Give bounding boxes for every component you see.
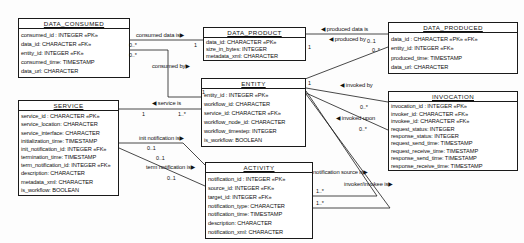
entity-data_consumed: DATA_CONSUMEDconsumed_id : INTEGER «PK»d… bbox=[18, 18, 130, 78]
connector-invoked-upon bbox=[306, 93, 388, 130]
attribute-row: request_send_time: TIMESTAMP bbox=[391, 140, 515, 146]
attribute-row: entity_id : INTEGER «PK» bbox=[204, 92, 303, 98]
multiplicity-label: 0..1 bbox=[147, 145, 156, 151]
attribute-row: init_notification_id: INTEGER «FK» bbox=[21, 146, 116, 152]
attribute-row: is_workflow: BOOLEAN bbox=[21, 187, 116, 193]
entity-invocation: INVOCATIONinvocation_id : INTEGER «PK»in… bbox=[388, 91, 518, 171]
attribute-row: request_status: INTEGER bbox=[391, 126, 515, 132]
attribute-row: source_id: INTEGER «FK» bbox=[208, 185, 310, 191]
attribute-row: invoker_id: CHARACTER «FK» bbox=[391, 111, 515, 117]
attribute-row: entity_id: INTEGER «FK» bbox=[391, 45, 515, 51]
attribute-row: data_id: CHARACTER «PK» bbox=[206, 39, 303, 45]
relationship-label: notification source is▶ bbox=[313, 169, 368, 175]
multiplicity-label: 1 bbox=[308, 80, 311, 86]
relationship-label: invoker/invokee is▶ bbox=[344, 181, 393, 187]
attribute-list: data_id: CHARACTER «PK»size_in_bytes: IN… bbox=[204, 38, 305, 60]
attribute-row: service_id : CHARACTER «PK» bbox=[21, 113, 116, 119]
attribute-row: metadata_xml: CHARACTER bbox=[21, 179, 116, 185]
entity-title-service: SERVICE bbox=[19, 101, 118, 111]
attribute-row: service_location: CHARACTER bbox=[21, 121, 116, 127]
entity-entity: ENTITYentity_id : INTEGER «PK»workflow_i… bbox=[201, 78, 306, 147]
multiplicity-label: 0..* bbox=[129, 42, 137, 48]
relationship-label: ◀ service is bbox=[152, 100, 181, 106]
attribute-list: service_id : CHARACTER «PK»service_locat… bbox=[19, 111, 118, 195]
relationship-label: ◀ produced data is bbox=[321, 26, 368, 32]
attribute-row: consumed_id : INTEGER «PK» bbox=[21, 32, 127, 38]
multiplicity-label: 0..* bbox=[359, 126, 367, 132]
multiplicity-label: 0..* bbox=[372, 47, 380, 53]
attribute-list: invocation_id : INTEGER «PK»invoker_id: … bbox=[389, 102, 517, 170]
attribute-row: produced_time: TIMESTAMP bbox=[391, 55, 515, 61]
attribute-row: workflow_node_id: CHARACTER bbox=[204, 119, 303, 125]
relationship-label: consumed data is▶ bbox=[136, 32, 184, 38]
entity-title-data_product: DATA_PRODUCT bbox=[204, 28, 305, 38]
multiplicity-label: 0..1 bbox=[367, 38, 376, 44]
multiplicity-label: 1..* bbox=[178, 111, 186, 117]
relationship-label: init notification is▶ bbox=[139, 135, 184, 141]
relationship-label: term notification is▶ bbox=[146, 164, 195, 170]
entity-title-data_produced: DATA_PRODUCED bbox=[389, 23, 517, 33]
attribute-list: entity_id : INTEGER «PK»workflow_id: CHA… bbox=[202, 89, 305, 146]
attribute-row: response_status: INTEGER bbox=[391, 133, 515, 139]
attribute-row: response_send_time: TIMESTAMP bbox=[391, 155, 515, 161]
multiplicity-label: 1 bbox=[194, 42, 197, 48]
attribute-row: invocation_id : INTEGER «PK» bbox=[391, 103, 515, 109]
attribute-row: notification_id : INTEGER «PK» bbox=[208, 176, 310, 182]
multiplicity-label: 1 bbox=[142, 111, 145, 117]
attribute-row: data_id: CHARACTER «FK» bbox=[21, 41, 127, 47]
attribute-row: size_in_bytes: INTEGER bbox=[206, 46, 303, 52]
entity-title-data_consumed: DATA_CONSUMED bbox=[19, 19, 129, 29]
entity-title-entity: ENTITY bbox=[202, 79, 305, 89]
multiplicity-label: 1..* bbox=[316, 188, 324, 194]
relationship-label: ◀ produced by bbox=[329, 36, 366, 42]
multiplicity-label: 0..1 bbox=[167, 175, 176, 181]
attribute-row: request_receive_time: TIMESTAMP bbox=[391, 148, 515, 154]
attribute-row: data_url: CHARACTER bbox=[391, 64, 515, 70]
entity-service: SERVICEservice_id : CHARACTER «PK»servic… bbox=[18, 100, 119, 196]
entity-data_product: DATA_PRODUCTdata_id: CHARACTER «PK»size_… bbox=[203, 27, 306, 61]
attribute-list: notification_id : INTEGER «PK»source_id:… bbox=[206, 173, 312, 238]
entity-title-activity: ACTIVITY bbox=[206, 163, 312, 173]
attribute-list: data_id : CHARACTER «PK» «FK»entity_id: … bbox=[389, 33, 517, 73]
connector-consumed-by bbox=[130, 50, 201, 97]
attribute-row: invokee_id: CHARACTER «FK» bbox=[391, 118, 515, 124]
attribute-row: is_workflow: BOOLEAN bbox=[204, 137, 303, 143]
attribute-list: consumed_id : INTEGER «PK»data_id: CHARA… bbox=[19, 29, 129, 77]
attribute-row: consumed_time: TIMESTAMP bbox=[21, 59, 127, 65]
attribute-row: entity_id: INTEGER «FK» bbox=[21, 50, 127, 56]
multiplicity-label: 0..* bbox=[360, 104, 368, 110]
connector-invoked-by bbox=[306, 88, 388, 102]
attribute-row: notification_xml: CHARACTER bbox=[208, 229, 310, 235]
attribute-row: target_id: INTEGER «FK» bbox=[208, 194, 310, 200]
entity-activity: ACTIVITYnotification_id : INTEGER «PK»so… bbox=[205, 162, 313, 239]
attribute-row: term_notification_id: INTEGER «FK» bbox=[21, 162, 116, 168]
uml-class-diagram: DATA_CONSUMEDconsumed_id : INTEGER «PK»d… bbox=[0, 0, 524, 243]
attribute-row: data_url: CHARACTER bbox=[21, 68, 127, 74]
multiplicity-label: 1 bbox=[202, 89, 205, 95]
multiplicity-label: 0..1 bbox=[156, 155, 165, 161]
entity-data_produced: DATA_PRODUCEDdata_id : CHARACTER «PK» «F… bbox=[388, 22, 518, 74]
attribute-row: data_id : CHARACTER «PK» «FK» bbox=[391, 36, 515, 42]
relationship-label: ◀ invoked upon bbox=[336, 115, 375, 121]
attribute-row: workflow_id: CHARACTER bbox=[204, 101, 303, 107]
attribute-row: workflow_timestep: INTEGER bbox=[204, 128, 303, 134]
multiplicity-label: 1..* bbox=[316, 200, 324, 206]
attribute-row: description: CHARACTER bbox=[21, 170, 116, 176]
attribute-row: response_receive_time: TIMESTAMP bbox=[391, 163, 515, 169]
relationship-label: consumed by▶ bbox=[152, 63, 190, 69]
multiplicity-label: 0..* bbox=[129, 52, 137, 58]
attribute-row: notification_time: TIMESTAMP bbox=[208, 211, 310, 217]
attribute-row: termination_time: TIMESTAMP bbox=[21, 154, 116, 160]
entity-title-invocation: INVOCATION bbox=[389, 92, 517, 102]
relationship-label: ◀ invoked by bbox=[340, 82, 373, 88]
attribute-row: service_interface: CHARACTER bbox=[21, 130, 116, 136]
attribute-row: description: CHARACTER bbox=[208, 220, 310, 226]
attribute-row: metadata_xml: CHARACTER bbox=[206, 53, 303, 59]
attribute-row: initialization_time: TIMESTAMP bbox=[21, 138, 116, 144]
attribute-row: service_id: CHARACTER «FK» bbox=[204, 110, 303, 116]
attribute-row: notification_type: CHARACTER bbox=[208, 203, 310, 209]
multiplicity-label: 1 bbox=[308, 44, 311, 50]
